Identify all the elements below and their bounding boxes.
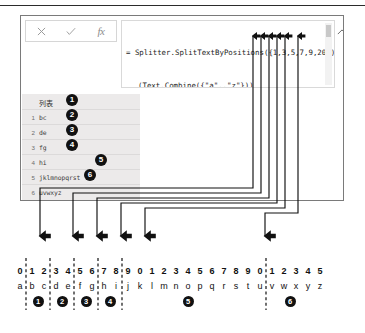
ruler-digit: 3 bbox=[290, 266, 302, 276]
row-value: hi bbox=[39, 159, 47, 167]
column-header-label: 列表 bbox=[39, 98, 53, 108]
ruler-digit: 6 bbox=[86, 266, 98, 276]
diagram-root: fx = Splitter.SplitTextByPositions({1,3,… bbox=[0, 0, 365, 333]
ruler-letter: l bbox=[146, 281, 158, 291]
row-value: de bbox=[39, 129, 47, 137]
formula-scroll-thumb[interactable] bbox=[326, 25, 331, 37]
ruler-letter: c bbox=[38, 281, 50, 291]
ruler-letter: n bbox=[170, 281, 182, 291]
result-preview-table: 列表 1 bc 2 de 3 fg 4 hi 5 jklmnopqrst bbox=[22, 94, 140, 200]
row-index: 4 bbox=[25, 159, 35, 166]
fx-label: fx bbox=[98, 25, 105, 37]
ruler-letter: m bbox=[158, 281, 170, 291]
ruler-digit: 8 bbox=[110, 266, 122, 276]
ruler-letter: i bbox=[110, 281, 122, 291]
ruler-digit: 2 bbox=[38, 266, 50, 276]
table-row[interactable]: 2 de bbox=[22, 124, 140, 140]
ruler-letter: q bbox=[206, 281, 218, 291]
cancel-icon[interactable] bbox=[26, 21, 56, 41]
ruler-digit: 0 bbox=[134, 266, 146, 276]
chevron-up-icon[interactable] bbox=[337, 22, 344, 32]
formula-bar-row: fx = Splitter.SplitTextByPositions({1,3,… bbox=[21, 16, 343, 93]
row-value: fg bbox=[39, 144, 47, 152]
alphabet-ruler: 01234567890123456789012345 abcdefghijklm… bbox=[0, 266, 365, 316]
ruler-segment-badge: 4 bbox=[105, 296, 116, 307]
row-index: 1 bbox=[25, 114, 35, 121]
ruler-letter: u bbox=[254, 281, 266, 291]
ruler-digit: 4 bbox=[302, 266, 314, 276]
ruler-letter: r bbox=[218, 281, 230, 291]
ruler-digit: 3 bbox=[170, 266, 182, 276]
ruler-digit: 0 bbox=[254, 266, 266, 276]
ruler-letter: f bbox=[74, 281, 86, 291]
accept-icon[interactable] bbox=[56, 21, 86, 41]
ruler-digit: 2 bbox=[158, 266, 170, 276]
ruler-segment-badge: 1 bbox=[33, 296, 44, 307]
ruler-segment-badges: 123456 bbox=[0, 296, 365, 310]
ruler-digit: 2 bbox=[278, 266, 290, 276]
ruler-digit: 6 bbox=[206, 266, 218, 276]
ruler-letter: t bbox=[242, 281, 254, 291]
row-callout-badge: 5 bbox=[95, 154, 107, 166]
ruler-letter: e bbox=[62, 281, 74, 291]
formula-input[interactable]: = Splitter.SplitTextByPositions({1,3,5,7… bbox=[121, 20, 335, 88]
row-index: 3 bbox=[25, 144, 35, 151]
ruler-segment-badge: 6 bbox=[285, 296, 296, 307]
ruler-digit: 7 bbox=[98, 266, 110, 276]
ruler-letter: g bbox=[86, 281, 98, 291]
ruler-letter: h bbox=[98, 281, 110, 291]
ruler-letter: y bbox=[302, 281, 314, 291]
ruler-digit: 5 bbox=[74, 266, 86, 276]
formula-scrollbar[interactable] bbox=[325, 23, 332, 85]
ruler-letter: j bbox=[122, 281, 134, 291]
row-index: 6 bbox=[25, 189, 35, 196]
ruler-segment-badge: 5 bbox=[183, 296, 194, 307]
table-row[interactable]: 6 uvwxyz bbox=[22, 184, 140, 200]
fx-icon[interactable]: fx bbox=[86, 21, 116, 41]
formula-line-1: = Splitter.SplitTextByPositions({1,3,5,7… bbox=[126, 47, 322, 58]
ruler-digit: 0 bbox=[14, 266, 26, 276]
row-index: 5 bbox=[25, 174, 35, 181]
table-header: 列表 bbox=[22, 94, 140, 109]
table-row[interactable]: 1 bc bbox=[22, 109, 140, 125]
ruler-letter: v bbox=[266, 281, 278, 291]
ruler-letter: o bbox=[182, 281, 194, 291]
row-callout-badge: 6 bbox=[84, 169, 96, 181]
ruler-segment-badge: 3 bbox=[81, 296, 92, 307]
ruler-digit: 4 bbox=[62, 266, 74, 276]
table-row[interactable]: 3 fg bbox=[22, 139, 140, 155]
ruler-letter: x bbox=[290, 281, 302, 291]
row-index: 2 bbox=[25, 129, 35, 136]
ruler-letter: b bbox=[26, 281, 38, 291]
ruler-digit: 1 bbox=[266, 266, 278, 276]
ruler-letter: d bbox=[50, 281, 62, 291]
formula-line-2: (Text.Combine({"a".."z"})) bbox=[126, 80, 322, 88]
ruler-segment-badge: 2 bbox=[57, 296, 68, 307]
table-row[interactable]: 4 hi bbox=[22, 154, 140, 170]
ruler-digit: 5 bbox=[194, 266, 206, 276]
ruler-digit: 9 bbox=[242, 266, 254, 276]
ruler-digit: 4 bbox=[182, 266, 194, 276]
ruler-letter: w bbox=[278, 281, 290, 291]
row-value: bc bbox=[39, 114, 47, 122]
row-callout-badge: 4 bbox=[66, 139, 78, 151]
ruler-digit: 9 bbox=[122, 266, 134, 276]
ruler-letter: k bbox=[134, 281, 146, 291]
table-row[interactable]: 5 jklmnopqrst bbox=[22, 169, 140, 185]
top-divider bbox=[0, 5, 365, 6]
formula-bar-buttons: fx bbox=[25, 20, 117, 42]
ruler-letter: p bbox=[194, 281, 206, 291]
ruler-digit: 1 bbox=[146, 266, 158, 276]
ruler-letter: s bbox=[230, 281, 242, 291]
ruler-letter-row: abcdefghijklmnopqrstuvwxyz bbox=[0, 281, 365, 294]
row-value: uvwxyz bbox=[39, 189, 62, 197]
row-callout-badge: 3 bbox=[66, 124, 78, 136]
ruler-digit: 5 bbox=[314, 266, 326, 276]
row-callout-badge: 1 bbox=[66, 94, 78, 106]
ruler-digit: 3 bbox=[50, 266, 62, 276]
ruler-letter: a bbox=[14, 281, 26, 291]
formula-text-block: = Splitter.SplitTextByPositions({1,3,5,7… bbox=[126, 25, 322, 88]
ruler-digit: 1 bbox=[26, 266, 38, 276]
ruler-digit-row: 01234567890123456789012345 bbox=[0, 266, 365, 279]
row-value: jklmnopqrst bbox=[39, 174, 80, 182]
